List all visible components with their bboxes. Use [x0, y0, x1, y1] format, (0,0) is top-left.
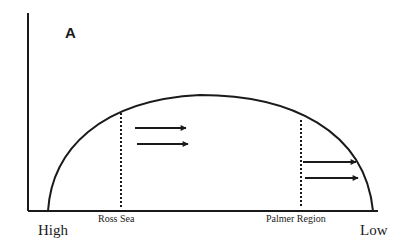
diagram: A High Low Ross Sea Palmer Region	[0, 0, 410, 247]
region-label-palmer: Palmer Region	[266, 214, 326, 224]
region-label-ross-sea: Ross Sea	[98, 214, 134, 224]
dome-curve	[48, 95, 373, 211]
x-axis-left-label: High	[38, 223, 68, 238]
x-axis-right-label: Low	[360, 223, 388, 238]
diagram-canvas	[0, 0, 410, 247]
panel-label: A	[65, 25, 76, 40]
